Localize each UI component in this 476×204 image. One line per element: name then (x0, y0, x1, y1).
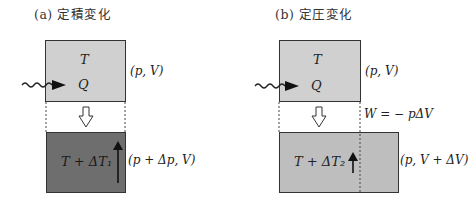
panel-a-pressure-arrowhead-icon (113, 141, 123, 150)
panel-b-up-arrowhead-icon (348, 152, 358, 161)
panel-b-heat-wave-icon (255, 84, 285, 88)
panel-b-heat-arrowhead-icon (285, 81, 299, 91)
panel-a-heat-wave-icon (22, 83, 52, 87)
panel-b-down-arrow-icon (312, 107, 326, 127)
diagram-overlay (0, 0, 476, 204)
panel-a-down-arrow-icon (79, 107, 93, 127)
panel-a-heat-arrowhead-icon (52, 80, 66, 90)
